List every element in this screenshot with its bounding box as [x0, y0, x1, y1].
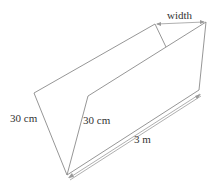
width-label: width: [167, 9, 193, 21]
edge-bottom: [67, 90, 199, 175]
trough-diagram: width 30 cm 30 cm 3 m: [0, 0, 217, 185]
edge-back-right: [199, 22, 206, 90]
edge-back-left: [155, 24, 166, 47]
edge-left-side: [34, 93, 67, 175]
arrowhead-icon: [156, 22, 161, 26]
inner-side-label: 30 cm: [83, 114, 111, 126]
edge-top-left: [34, 24, 155, 93]
width-dimension-line: [157, 22, 204, 24]
left-side-label: 30 cm: [10, 112, 38, 124]
length-label: 3 m: [134, 133, 151, 145]
edge-inner-long: [88, 22, 206, 96]
